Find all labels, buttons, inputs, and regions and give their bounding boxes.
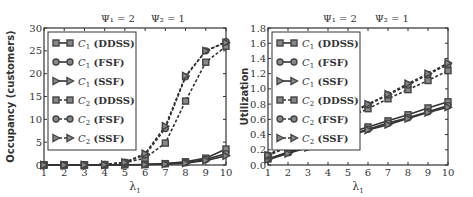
x-tick-label: 8 xyxy=(182,167,188,178)
x-axis-label: λ1 xyxy=(352,180,363,195)
y-tick-label: 0.8 xyxy=(250,99,266,110)
x-tick-label: 9 xyxy=(203,167,209,178)
x-axis-label: λ1 xyxy=(129,180,140,195)
square-marker xyxy=(445,68,451,74)
legend: C1 (DDSS)C1 (FSF)C1 (SSF)C2 (DDSS)C2 (FS… xyxy=(272,32,360,150)
occupancy-chart-svg: 12345678910051015202530λ1Occupancy (cust… xyxy=(0,0,236,197)
square-icon xyxy=(53,40,59,46)
circle-icon xyxy=(53,59,59,65)
legend: C1 (DDSS)C1 (FSF)C1 (SSF)C2 (DDSS)C2 (FS… xyxy=(48,32,136,150)
square-icon xyxy=(277,40,283,46)
occupancy-chart: 12345678910051015202530λ1Occupancy (cust… xyxy=(0,0,236,197)
x-tick-label: 10 xyxy=(220,167,233,178)
square-marker xyxy=(162,140,168,146)
psi2-annotation: Ψ₂ = 1 xyxy=(375,13,409,24)
y-tick-label: 1.4 xyxy=(250,53,266,64)
y-tick-label: 0.0 xyxy=(250,160,266,171)
y-tick-label: 0.2 xyxy=(250,144,266,155)
square-marker xyxy=(183,98,189,104)
y-tick-label: 0.6 xyxy=(250,114,266,125)
y-tick-label: 0.4 xyxy=(250,129,266,140)
x-tick-label: 10 xyxy=(442,167,455,178)
circle-icon xyxy=(277,116,283,122)
y-axis-label: Occupancy (customers) xyxy=(5,30,16,162)
x-tick-label: 6 xyxy=(365,167,371,178)
square-icon xyxy=(291,40,297,46)
psi1-annotation: Ψ₁ = 2 xyxy=(323,13,357,24)
y-tick-label: 1.2 xyxy=(250,68,266,79)
y-tick-label: 25 xyxy=(29,45,42,56)
square-icon xyxy=(291,97,297,103)
x-tick-label: 7 xyxy=(162,167,168,178)
square-icon xyxy=(53,97,59,103)
x-tick-label: 8 xyxy=(405,167,411,178)
y-axis-label: Utilization xyxy=(239,68,250,126)
circle-icon xyxy=(67,59,73,65)
circle-icon xyxy=(291,59,297,65)
utilization-chart-svg: 123456789100.00.20.40.60.81.01.21.41.61.… xyxy=(236,0,473,197)
y-tick-label: 10 xyxy=(29,114,42,125)
x-tick-label: 4 xyxy=(325,167,331,178)
y-tick-label: 20 xyxy=(29,68,42,79)
psi2-annotation: Ψ₂ = 1 xyxy=(151,13,185,24)
x-tick-label: 5 xyxy=(345,167,351,178)
x-tick-label: 9 xyxy=(425,167,431,178)
y-tick-label: 5 xyxy=(36,137,42,148)
circle-icon xyxy=(67,116,73,122)
y-tick-label: 1.0 xyxy=(250,83,266,94)
square-icon xyxy=(277,97,283,103)
x-tick-label: 6 xyxy=(142,167,148,178)
x-tick-label: 7 xyxy=(385,167,391,178)
square-marker xyxy=(425,78,431,84)
square-icon xyxy=(67,97,73,103)
square-marker xyxy=(203,59,209,65)
circle-icon xyxy=(53,116,59,122)
utilization-chart: 123456789100.00.20.40.60.81.01.21.41.61.… xyxy=(236,0,473,197)
psi1-annotation: Ψ₁ = 2 xyxy=(101,13,135,24)
x-tick-label: 2 xyxy=(285,167,291,178)
y-tick-label: 15 xyxy=(29,91,42,102)
y-tick-label: 1.8 xyxy=(250,23,266,34)
y-tick-label: 30 xyxy=(29,23,42,34)
y-tick-label: 1.6 xyxy=(250,38,266,49)
circle-icon xyxy=(291,116,297,122)
circle-icon xyxy=(277,59,283,65)
x-tick-label: 3 xyxy=(305,167,311,178)
square-icon xyxy=(67,40,73,46)
